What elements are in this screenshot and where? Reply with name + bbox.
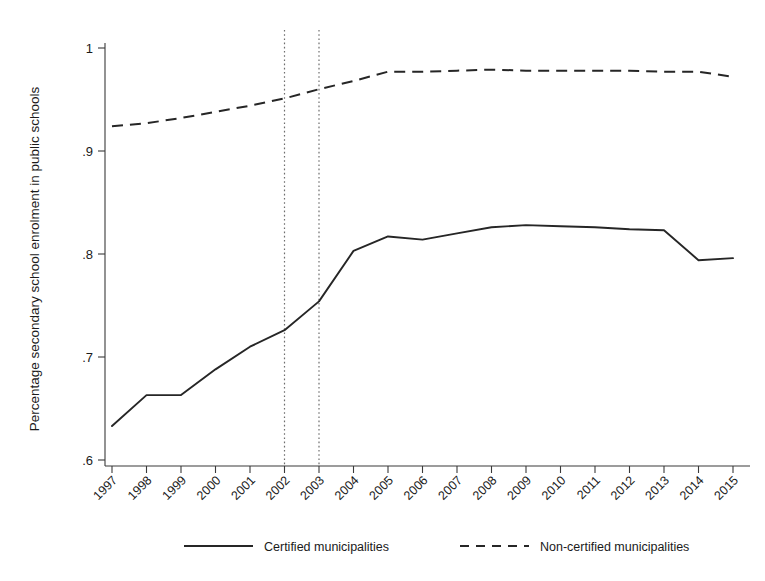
y-tick-label: .6 <box>82 453 93 468</box>
chart-figure: Percentage secondary school enrolment in… <box>0 0 765 581</box>
legend-label-non-certified: Non-certified municipalities <box>540 540 689 554</box>
legend-label-certified: Certified municipalities <box>264 540 389 554</box>
y-tick-label: .8 <box>82 247 93 262</box>
y-tick-label: .9 <box>82 144 93 159</box>
y-tick-label: 1 <box>86 41 93 56</box>
y-axis-title: Percentage secondary school enrolment in… <box>27 87 42 432</box>
line-chart-svg: Percentage secondary school enrolment in… <box>0 0 765 581</box>
y-tick-label: .7 <box>82 350 93 365</box>
